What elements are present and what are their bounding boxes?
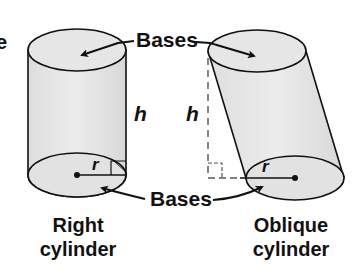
top-bases-label: Bases [136,28,198,51]
oblique-caption-line1: Oblique [254,214,328,236]
right-cylinder-top-base [28,29,126,71]
right-caption-line1: Right [52,214,103,236]
cylinders-diagram: e r h r h Bases Bases Right [0,0,353,278]
oblique-caption-line2: cylinder [253,238,330,260]
bottom-bases-label: Bases [150,187,212,210]
partial-left-text: e [0,31,7,53]
right-height-label: h [134,102,147,125]
oblique-center-dot [292,175,298,181]
bottom-left-arrow [102,188,145,199]
right-center-dot [74,172,80,178]
oblique-cylinder-top-base [208,30,306,72]
oblique-height-label: h [186,102,199,125]
right-caption-line2: cylinder [40,238,117,260]
oblique-cylinder: r h [186,30,344,200]
oblique-right-angle-marker [208,163,222,177]
